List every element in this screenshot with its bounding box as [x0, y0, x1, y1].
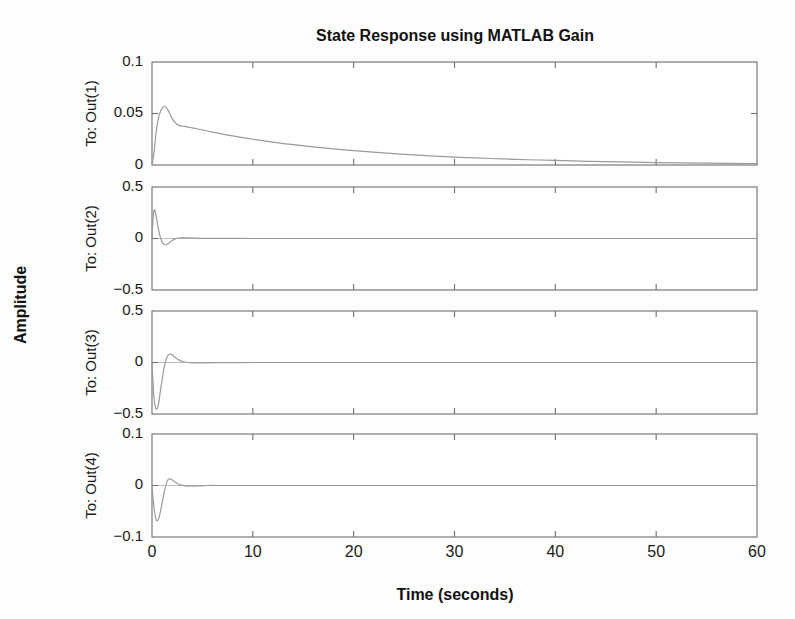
subplot-row-label: To: Out(3) — [82, 329, 99, 396]
subplot-1: 00.050.1To: Out(1) — [82, 52, 757, 172]
x-tick-label: 60 — [748, 543, 766, 560]
subplot-2: −0.500.5To: Out(2) — [82, 177, 757, 297]
page-title: State Response using MATLAB Gain — [316, 27, 594, 44]
figure-page: State Response using MATLAB Gain Amplitu… — [0, 0, 795, 619]
subplot-row-label: To: Out(1) — [82, 80, 99, 147]
y-tick-label: 0.5 — [122, 301, 143, 318]
y-tick-label: 0.1 — [122, 424, 143, 441]
state-response-figure: State Response using MATLAB Gain Amplitu… — [0, 0, 795, 619]
x-tick-label: 0 — [148, 543, 157, 560]
subplot-row-label: To: Out(4) — [82, 452, 99, 519]
subplot-frame — [152, 62, 757, 165]
subplot-3: −0.500.5To: Out(3) — [82, 301, 757, 421]
x-tick-label: 40 — [546, 543, 564, 560]
y-tick-label: 0.05 — [114, 103, 143, 120]
y-tick-label: −0.5 — [113, 280, 143, 297]
plot-area: 00.050.1To: Out(1)−0.500.5To: Out(2)−0.5… — [82, 52, 766, 560]
y-tick-label: 0.1 — [122, 52, 143, 69]
y-tick-label: 0 — [135, 155, 143, 172]
y-axis-label: Amplitude — [12, 266, 29, 344]
y-tick-label: 0.5 — [122, 177, 143, 194]
x-tick-label: 10 — [244, 543, 262, 560]
y-tick-label: −0.1 — [113, 527, 143, 544]
x-tick-label: 50 — [647, 543, 665, 560]
y-tick-label: 0 — [135, 475, 143, 492]
y-tick-label: 0 — [135, 228, 143, 245]
x-tick-label: 30 — [446, 543, 464, 560]
subplot-row-label: To: Out(2) — [82, 205, 99, 272]
y-tick-label: 0 — [135, 352, 143, 369]
x-axis-label: Time (seconds) — [396, 586, 513, 603]
y-tick-label: −0.5 — [113, 404, 143, 421]
x-tick-label: 20 — [345, 543, 363, 560]
subplot-4: −0.100.1To: Out(4) — [82, 424, 757, 544]
